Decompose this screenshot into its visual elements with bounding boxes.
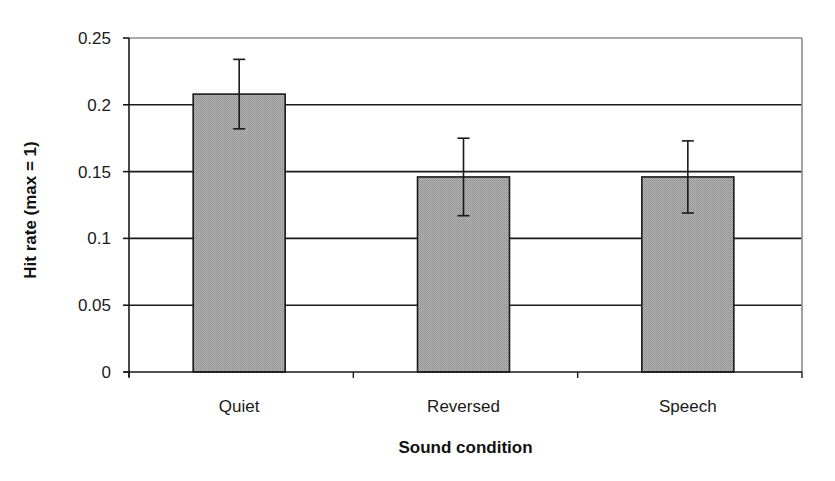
y-tick-label: 0.25 [78,29,111,48]
x-ticks [129,372,802,378]
x-axis-title: Sound condition [398,438,532,457]
x-category-label: Speech [659,397,717,416]
bar-quiet [193,94,285,372]
x-category-label: Reversed [427,397,500,416]
y-tick-label: 0.15 [78,163,111,182]
bar-chart: 00.050.10.150.20.25 QuietReversedSpeech … [0,0,835,481]
plot-area [123,38,802,378]
y-tick-label: 0 [102,363,111,382]
y-tick-label: 0.1 [87,229,111,248]
x-category-labels: QuietReversedSpeech [219,397,717,416]
y-tick-label: 0.2 [87,96,111,115]
x-category-label: Quiet [219,397,260,416]
y-ticks [123,38,129,372]
y-axis-title: Hit rate (max = 1) [21,141,40,278]
y-tick-labels: 00.050.10.150.20.25 [78,29,111,382]
y-tick-label: 0.05 [78,296,111,315]
